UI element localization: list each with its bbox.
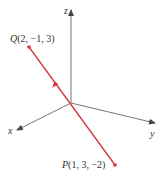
point-p-coords: (1, 3, −2) [68, 159, 105, 171]
y-axis [71, 103, 155, 123]
x-axis-label: x [7, 125, 13, 136]
y-axis-label: y [149, 128, 155, 139]
line-pq [29, 47, 115, 165]
x-axis [17, 103, 71, 130]
z-axis-label: z [63, 5, 68, 16]
point-q [27, 45, 31, 49]
diagram-canvas: z x y Q(2, −1, 3) P(1, 3, −2) [0, 0, 166, 179]
point-p-label: P(1, 3, −2) [61, 159, 105, 171]
point-p-name: P [61, 159, 68, 170]
point-q-label: Q(2, −1, 3) [10, 33, 55, 45]
point-p [113, 163, 117, 167]
point-q-coords: (2, −1, 3) [17, 33, 54, 45]
